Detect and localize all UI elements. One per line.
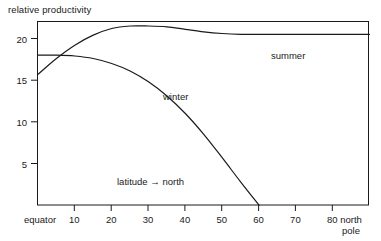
x-axis-ticks [74, 205, 332, 211]
chart-figure: relative productivity 20 15 10 5 [0, 0, 381, 241]
summer-curve-label: summer [271, 50, 305, 61]
x-tick-label-60: 60 [253, 214, 264, 225]
x-tick-label-80: 80 [327, 214, 338, 225]
x-tick-label-equator: equator [24, 214, 56, 225]
x-axis-end-label-north-pole: north pole [340, 214, 362, 236]
y-axis-ticks [31, 39, 38, 164]
summer-curve [38, 26, 370, 75]
x-tick-label-70: 70 [290, 214, 301, 225]
y-tick-label-5: 5 [0, 158, 27, 169]
x-tick-label-10: 10 [69, 214, 80, 225]
x-tick-label-50: 50 [216, 214, 227, 225]
plot-area [0, 0, 381, 241]
north-pole-line-2: pole [340, 225, 362, 236]
y-tick-label-15: 15 [0, 75, 27, 86]
x-axis-caption: latitude → north [117, 176, 184, 187]
winter-curve-label: winter [163, 91, 188, 102]
x-tick-label-20: 20 [106, 214, 117, 225]
y-tick-label-10: 10 [0, 116, 27, 127]
north-pole-line-1: north [340, 214, 362, 225]
x-tick-label-30: 30 [143, 214, 154, 225]
x-tick-label-40: 40 [180, 214, 191, 225]
y-tick-label-20: 20 [0, 33, 27, 44]
plot-frame [38, 22, 369, 206]
